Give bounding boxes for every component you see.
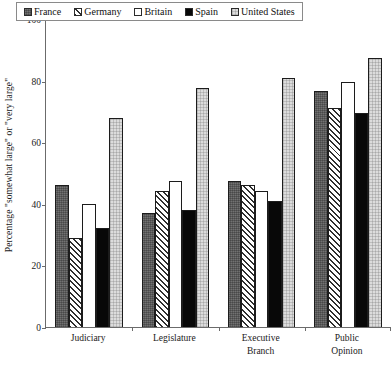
bar-united-states-judiciary xyxy=(109,118,123,327)
x-axis-tick-label: PublicOpinion xyxy=(304,332,390,357)
x-axis-tick-label-line: Public xyxy=(304,332,390,345)
legend-swatch-icon xyxy=(74,8,82,16)
bar-britain-legislature xyxy=(169,181,183,327)
x-axis-tick-mark xyxy=(132,327,133,331)
legend-entry-label: Britain xyxy=(144,6,172,17)
bar-spain-executive-branch xyxy=(268,201,282,327)
x-axis-tick-labels: JudiciaryLegislatureExecutiveBranchPubli… xyxy=(45,332,390,365)
legend-swatch-icon xyxy=(231,8,239,16)
y-axis-tick-labels: 020406080100 xyxy=(18,0,45,365)
bar-spain-legislature xyxy=(182,210,196,327)
plot-area xyxy=(45,20,390,328)
x-axis-tick-label: ExecutiveBranch xyxy=(218,332,304,357)
x-axis-tick-label: Legislature xyxy=(131,332,217,345)
x-axis-tick-mark xyxy=(219,327,220,331)
x-axis-tick-label-line: Judiciary xyxy=(45,332,131,345)
bar-group-executive-branch xyxy=(219,20,305,327)
legend-entry-britain[interactable]: Britain xyxy=(134,6,172,17)
bar-group-public-opinion xyxy=(305,20,391,327)
x-axis-tick-label-line: Legislature xyxy=(131,332,217,345)
legend-entry-label: Germany xyxy=(84,6,121,17)
bar-germany-legislature xyxy=(155,191,169,327)
bar-germany-judiciary xyxy=(69,238,83,327)
bar-spain-public-opinion xyxy=(355,113,369,327)
legend-entry-united-states[interactable]: United States xyxy=(231,6,295,17)
bar-germany-public-opinion xyxy=(328,108,342,327)
legend-entry-germany[interactable]: Germany xyxy=(74,6,121,17)
legend-entry-france[interactable]: France xyxy=(24,6,61,17)
x-axis-tick-label-line: Opinion xyxy=(304,345,390,358)
bar-britain-executive-branch xyxy=(255,191,269,327)
bar-france-legislature xyxy=(142,213,156,327)
legend-swatch-icon xyxy=(134,8,142,16)
bar-france-judiciary xyxy=(55,185,69,327)
bar-group-judiciary xyxy=(46,20,132,327)
bar-france-executive-branch xyxy=(228,181,242,327)
y-axis-tick-label: 20 xyxy=(18,261,45,271)
bar-spain-judiciary xyxy=(96,228,110,327)
x-axis-tick-label-line: Branch xyxy=(218,345,304,358)
y-axis-tick-label: 80 xyxy=(18,77,45,87)
legend-entry-label: United States xyxy=(241,6,295,17)
y-axis-tick-label: 40 xyxy=(18,200,45,210)
legend-entry-spain[interactable]: Spain xyxy=(185,6,218,17)
bar-britain-public-opinion xyxy=(341,82,355,327)
bar-group-legislature xyxy=(132,20,218,327)
x-axis-tick-mark xyxy=(305,327,306,331)
bar-united-states-executive-branch xyxy=(282,78,296,327)
legend-entry-label: Spain xyxy=(195,6,218,17)
bar-united-states-legislature xyxy=(196,88,210,327)
bar-germany-executive-branch xyxy=(241,185,255,327)
y-axis-tick-mark xyxy=(42,328,46,329)
x-axis-tick-label: Judiciary xyxy=(45,332,131,345)
y-axis-title-text: Percentage "somewhat large" or "very lar… xyxy=(4,78,14,252)
x-axis-tick-mark xyxy=(390,327,391,331)
legend-entry-label: France xyxy=(34,6,61,17)
bar-united-states-public-opinion xyxy=(368,58,382,328)
x-axis-tick-label-line: Executive xyxy=(218,332,304,345)
chart-legend: FranceGermanyBritainSpainUnited States xyxy=(16,2,303,21)
bar-france-public-opinion xyxy=(314,91,328,327)
bar-chart-figure: Percentage "somewhat large" or "very lar… xyxy=(0,0,392,365)
y-axis-tick-label: 60 xyxy=(18,138,45,148)
y-axis-title: Percentage "somewhat large" or "very lar… xyxy=(0,0,18,330)
legend-swatch-icon xyxy=(185,8,193,16)
y-axis-tick-label: 0 xyxy=(18,323,45,333)
bar-britain-judiciary xyxy=(82,204,96,327)
legend-swatch-icon xyxy=(24,8,32,16)
